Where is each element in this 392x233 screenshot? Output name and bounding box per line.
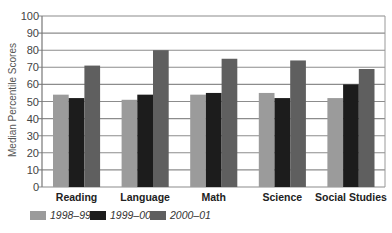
y-tick-label: 50 [27,96,39,108]
x-category-label: Math [202,191,227,203]
y-axis-label: Median Percentile Scores [7,43,18,157]
legend-swatch [30,211,46,220]
y-axis-ticks: 0102030405060708090100 [21,10,39,193]
y-tick-label: 40 [27,113,39,125]
bar [122,100,138,187]
legend-item: 1998–99 [30,209,91,221]
y-tick-label: 70 [27,61,39,73]
bar [359,69,375,187]
legend-item: 2000–01 [150,209,211,221]
legend-item: 1999–00 [90,209,151,221]
bar-chart: Median Percentile Scores 010203040506070… [0,0,392,233]
x-axis-categories: ReadingLanguageMathScienceSocial Studies [56,191,387,203]
legend-swatch [90,211,106,220]
bar [69,98,85,187]
y-tick-label: 80 [27,44,39,56]
y-tick-label: 100 [21,10,39,22]
x-category-label: Reading [56,191,97,203]
bar [343,84,359,187]
legend-label: 1998–99 [50,209,91,221]
y-tick-label: 10 [27,164,39,176]
bar [222,59,238,187]
y-tick-label: 30 [27,130,39,142]
y-tick-label: 90 [27,27,39,39]
y-tick-label: 0 [33,181,39,193]
x-category-label: Science [262,191,302,203]
bar [190,95,206,187]
bar [259,93,275,187]
x-category-label: Language [120,191,170,203]
bar [290,60,306,187]
y-tick-label: 20 [27,147,39,159]
legend: 1998–991999–002000–01 [30,209,211,221]
bar [84,66,100,187]
bar [327,98,343,187]
bar [153,50,169,187]
x-category-label: Social Studies [315,191,387,203]
legend-label: 1999–00 [110,209,151,221]
bar [275,98,291,187]
legend-label: 2000–01 [169,209,211,221]
bar [206,93,222,187]
legend-swatch [150,211,166,220]
bar [53,95,69,187]
bar [137,95,153,187]
y-tick-label: 60 [27,78,39,90]
